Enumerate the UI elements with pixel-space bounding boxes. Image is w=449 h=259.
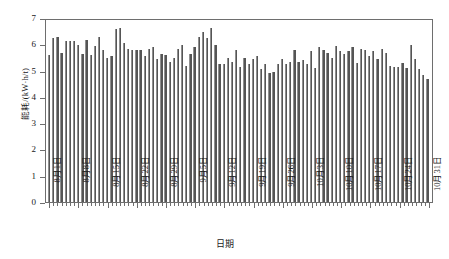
bar bbox=[156, 59, 158, 202]
x-tick bbox=[108, 203, 109, 208]
bar bbox=[223, 64, 225, 202]
bar bbox=[414, 59, 416, 202]
bar bbox=[277, 64, 279, 202]
x-tick bbox=[195, 203, 196, 208]
bar bbox=[422, 75, 424, 202]
x-tick-label: 8月1日 bbox=[53, 156, 62, 208]
y-tick-label: 6 bbox=[18, 40, 36, 49]
bar bbox=[65, 41, 67, 202]
x-tick bbox=[429, 203, 430, 208]
y-tick-label: 0 bbox=[18, 198, 36, 207]
bar bbox=[193, 47, 195, 202]
x-tick bbox=[220, 203, 221, 206]
x-tick-label: 9月19日 bbox=[258, 156, 267, 208]
bar bbox=[252, 59, 254, 202]
bar bbox=[310, 51, 312, 202]
x-tick bbox=[191, 203, 192, 206]
bar bbox=[326, 53, 328, 203]
bar bbox=[393, 67, 395, 202]
x-tick bbox=[74, 203, 75, 206]
bar bbox=[77, 45, 79, 202]
x-tick bbox=[66, 203, 67, 206]
y-tick-label: 7 bbox=[18, 14, 36, 23]
x-tick bbox=[312, 203, 313, 208]
x-tick bbox=[78, 203, 79, 208]
x-tick bbox=[383, 203, 384, 206]
bar bbox=[102, 50, 104, 202]
bar bbox=[268, 73, 270, 202]
x-tick-label: 9月26日 bbox=[287, 156, 296, 208]
x-tick bbox=[387, 203, 388, 206]
bar bbox=[297, 62, 299, 202]
x-tick-label: 9月5日 bbox=[199, 156, 208, 208]
x-tick bbox=[366, 203, 367, 206]
y-tick-label: 5 bbox=[18, 67, 36, 76]
bar bbox=[131, 50, 133, 202]
x-tick bbox=[224, 203, 225, 208]
y-tick-label: 4 bbox=[18, 93, 36, 102]
x-tick bbox=[128, 203, 129, 206]
x-tick bbox=[99, 203, 100, 206]
bar bbox=[160, 54, 162, 202]
x-tick-label: 8月15日 bbox=[112, 156, 121, 208]
x-tick-label: 8月8日 bbox=[82, 156, 91, 208]
x-tick bbox=[358, 203, 359, 206]
x-tick bbox=[166, 203, 167, 208]
bar bbox=[335, 46, 337, 202]
x-tick bbox=[396, 203, 397, 206]
bar bbox=[152, 47, 154, 202]
y-tick-label: 2 bbox=[18, 145, 36, 154]
x-tick bbox=[274, 203, 275, 206]
bar bbox=[239, 67, 241, 202]
bar bbox=[339, 51, 341, 202]
bar bbox=[98, 37, 100, 202]
x-tick-label: 10月10日 bbox=[345, 156, 354, 208]
bar bbox=[272, 72, 274, 202]
x-tick bbox=[183, 203, 184, 206]
bar bbox=[385, 53, 387, 203]
x-tick-label: 10月3日 bbox=[316, 156, 325, 208]
y-tick-label: 1 bbox=[18, 172, 36, 181]
bar bbox=[418, 69, 420, 202]
x-tick bbox=[400, 203, 401, 208]
bar bbox=[106, 58, 108, 202]
x-axis-title: 日期 bbox=[0, 237, 449, 250]
x-tick bbox=[333, 203, 334, 206]
bar bbox=[426, 79, 428, 203]
bar bbox=[281, 59, 283, 202]
x-tick bbox=[421, 203, 422, 206]
bar bbox=[127, 49, 129, 202]
x-tick-label: 10月17日 bbox=[374, 156, 383, 208]
bar bbox=[123, 43, 125, 202]
bar bbox=[210, 28, 212, 202]
figure-container: 能耗/(kW·h/t) 01234567 8月1日8月8日8月15日8月22日8… bbox=[0, 0, 449, 259]
bar bbox=[48, 55, 50, 202]
x-tick bbox=[370, 203, 371, 208]
bar bbox=[360, 49, 362, 202]
x-tick-label: 10月31日 bbox=[433, 156, 442, 208]
x-tick-label: 8月22日 bbox=[141, 156, 150, 208]
x-tick bbox=[133, 203, 134, 206]
bar bbox=[185, 66, 187, 203]
bar bbox=[389, 66, 391, 203]
x-tick bbox=[304, 203, 305, 206]
x-tick bbox=[245, 203, 246, 206]
x-tick bbox=[137, 203, 138, 208]
x-tick bbox=[341, 203, 342, 208]
x-tick-label: 8月29日 bbox=[170, 156, 179, 208]
x-tick bbox=[249, 203, 250, 206]
x-tick bbox=[162, 203, 163, 206]
x-tick bbox=[300, 203, 301, 206]
bar bbox=[181, 45, 183, 202]
bar bbox=[94, 46, 96, 202]
x-tick bbox=[283, 203, 284, 208]
x-tick bbox=[187, 203, 188, 206]
bar bbox=[397, 67, 399, 202]
bar bbox=[356, 63, 358, 202]
bar bbox=[306, 64, 308, 202]
bar bbox=[69, 41, 71, 202]
x-tick bbox=[308, 203, 309, 206]
y-tick-label: 3 bbox=[18, 119, 36, 128]
x-tick bbox=[362, 203, 363, 206]
x-tick bbox=[337, 203, 338, 206]
